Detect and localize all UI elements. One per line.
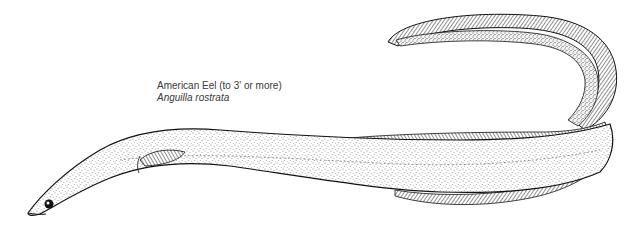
scientific-name: Anguilla rostrata (157, 92, 282, 104)
common-name: American Eel (to 3' or more) (157, 80, 282, 92)
tail-loop-body (396, 31, 598, 126)
eye-highlight (47, 202, 50, 205)
caption: American Eel (to 3' or more) Anguilla ro… (157, 80, 282, 104)
eel-body (28, 124, 613, 215)
eel-illustration (0, 0, 643, 241)
